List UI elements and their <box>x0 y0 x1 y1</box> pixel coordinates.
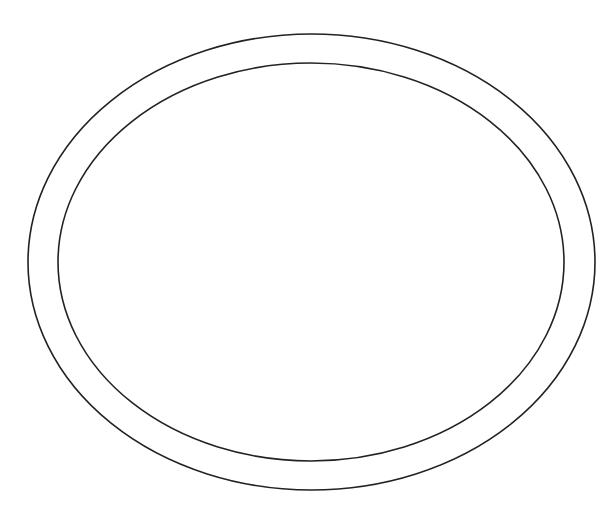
background <box>0 0 615 518</box>
diagram-canvas <box>0 0 615 518</box>
